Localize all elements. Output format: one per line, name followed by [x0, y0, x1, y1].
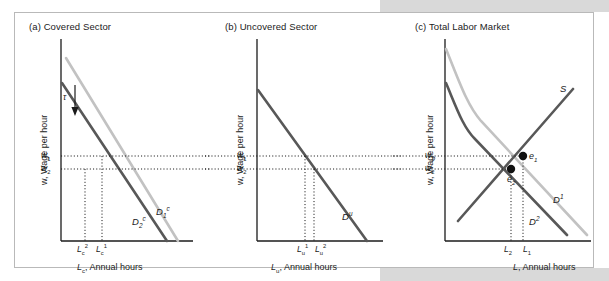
panel-b-xtick-lu2: Lu2: [315, 244, 326, 254]
panel-c-label-e1: e1: [529, 151, 537, 161]
panel-uncovered-sector: (b) Uncovered Sector w, Wage per hour w1…: [211, 13, 401, 269]
panel-total-labor-market: (c) Total Labor Market w, Wage per hour: [401, 13, 595, 269]
panel-a-label-d1c: D1c: [156, 206, 170, 217]
panel-a-ytick-w2: w2: [41, 163, 50, 173]
panel-c-label-d1: D1: [553, 194, 563, 205]
panel-a-ytick-w1: w1: [41, 150, 50, 160]
panel-a-xtick-lc1: Lc1: [96, 244, 107, 254]
panel-b-label-du: Du: [342, 211, 352, 222]
panel-c-demand-curve-d1: [446, 49, 587, 235]
panel-c-x-axis-label: L, Annual hours: [513, 262, 576, 272]
panel-c-equilibrium-point-e2: [507, 165, 515, 173]
panel-b-xtick-lu1: Lu1: [297, 244, 308, 254]
page-background-band-left: [0, 0, 14, 281]
panel-covered-sector: (a) Covered Sector w, Wage per hour: [15, 13, 211, 269]
panel-c-plot: [401, 13, 595, 269]
panel-b-ytick-w1: w1: [237, 150, 246, 160]
panel-c-xtick-l1: L1: [523, 244, 531, 254]
panel-a-label-d2c: D2c: [132, 216, 146, 227]
figure-root: (a) Covered Sector w, Wage per hour: [0, 0, 609, 281]
panel-b-plot: [211, 13, 401, 269]
panel-c-label-s: S: [560, 83, 566, 94]
panel-c-label-e2: e2: [507, 174, 515, 184]
panel-a-plot: [15, 13, 211, 269]
panel-b-ytick-w2: w2: [237, 163, 246, 173]
panel-a-tau-label: τ: [63, 92, 66, 102]
panel-c-xtick-l2: L2: [504, 244, 512, 254]
panel-b-x-axis-label: Lu, Annual hours: [271, 262, 337, 272]
panel-a-tau-arrow-head: [71, 107, 78, 116]
panel-c-label-d2: D2: [529, 216, 539, 227]
panel-c-ytick-w2: w2: [425, 163, 434, 173]
panel-c-equilibrium-point-e1: [519, 152, 527, 160]
panel-a-xtick-lc2: Lc2: [77, 244, 88, 254]
panel-a-x-axis-label: Lc, Annual hours: [77, 262, 143, 272]
panel-c-ytick-w1: w1: [425, 150, 434, 160]
page-background-band-top: [380, 0, 609, 12]
figure-frame: (a) Covered Sector w, Wage per hour: [14, 12, 594, 268]
panel-a-demand-curve-d2c: [62, 83, 167, 241]
